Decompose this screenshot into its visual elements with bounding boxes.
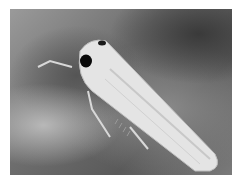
insect-body <box>79 40 217 171</box>
leafhopper-illustration <box>10 9 232 175</box>
leg-spines <box>115 119 130 136</box>
leafhopper-photo <box>10 9 232 175</box>
insect-eye <box>80 55 92 68</box>
